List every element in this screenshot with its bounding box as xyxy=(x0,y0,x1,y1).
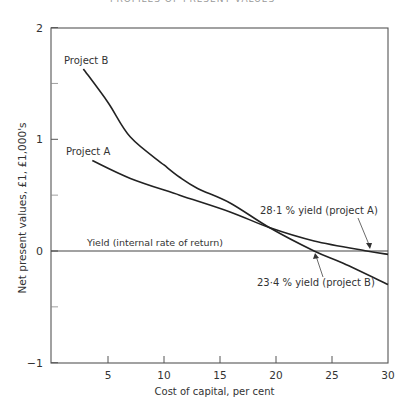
x-tick-label: 15 xyxy=(213,369,226,381)
label-project-a: Project A xyxy=(66,146,110,157)
x-tick-label: 30 xyxy=(381,369,394,381)
annotation-project-a-yield: 28·1 % yield (project A) xyxy=(260,205,378,216)
npv-chart: 51015202530−1012 Yield (internal rate of… xyxy=(0,0,410,405)
chart-labels: Yield (internal rate of return)Project B… xyxy=(16,55,378,397)
x-axis-title: Cost of capital, per cent xyxy=(155,386,275,397)
series-project-b xyxy=(83,69,388,285)
x-tick-label: 10 xyxy=(157,369,170,381)
yield-line-label: Yield (internal rate of return) xyxy=(86,237,223,248)
y-tick-label: 0 xyxy=(36,245,43,258)
y-tick-label: 2 xyxy=(36,22,43,35)
y-tick-label: −1 xyxy=(27,357,43,370)
data-series xyxy=(51,69,388,285)
x-tick-label: 25 xyxy=(325,369,338,381)
plot-border xyxy=(51,28,388,363)
label-project-b: Project B xyxy=(64,55,108,66)
arrowhead-project-b xyxy=(313,253,319,259)
arrow-project-b xyxy=(316,256,323,277)
x-tick-label: 20 xyxy=(269,369,282,381)
axis-ticks: 51015202530−1012 xyxy=(27,22,395,381)
plot-frame xyxy=(51,28,388,363)
annotation-project-b-yield: 23·4 % yield (project B) xyxy=(257,277,375,288)
y-tick-label: 1 xyxy=(36,133,43,146)
y-axis-title: Net present values, £1, £1,000's xyxy=(16,123,28,294)
x-tick-label: 5 xyxy=(105,369,112,381)
arrow-project-a xyxy=(358,218,370,247)
arrowhead-project-a xyxy=(366,243,372,249)
